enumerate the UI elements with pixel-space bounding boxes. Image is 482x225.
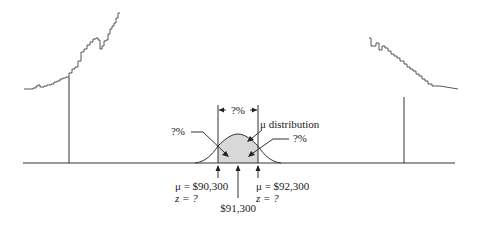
right-tail-percent-label: ?% xyxy=(293,132,307,144)
left-tail-percent-label: ?% xyxy=(171,125,185,137)
right-bound-mu-label: μ = $92,300 xyxy=(256,180,310,192)
left-bound-mu-label: μ = $90,300 xyxy=(175,180,229,192)
width-percent-label: ?% xyxy=(231,104,245,116)
right-bound-z-label: z = ? xyxy=(255,192,279,204)
mu-distribution-pointer xyxy=(251,130,262,139)
center-value-label: $91,300 xyxy=(220,202,256,214)
left-bound-z-label: z = ? xyxy=(174,192,198,204)
diagram-canvas: ?% ?% ?% μ distribution μ = $90,300 z = … xyxy=(0,0,482,225)
mu-distribution-label: μ distribution xyxy=(260,118,320,130)
right-histogram-fragment xyxy=(369,38,458,89)
left-bound-arrowhead xyxy=(216,165,221,171)
width-arrowhead-right xyxy=(252,108,257,113)
right-bound-arrowhead xyxy=(256,165,261,171)
width-arrowhead-left xyxy=(219,108,224,113)
center-arrowhead xyxy=(236,165,241,171)
left-histogram-fragment xyxy=(24,13,120,89)
